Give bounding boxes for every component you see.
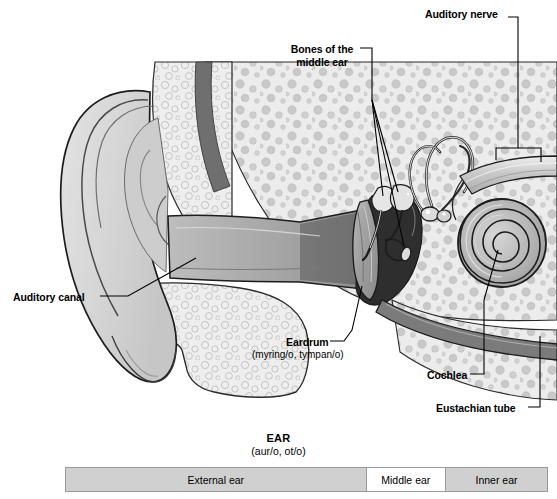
region-cell-external-ear: External ear [66, 468, 367, 491]
callout-cochlea: Cochlea [427, 369, 467, 382]
callout-bones-of-middle-ear: Bones of the middle ear [279, 43, 365, 68]
cochlea-spiral [458, 199, 546, 287]
figure-combining-forms: (aur/o, ot/o) [0, 445, 557, 457]
callout-eustachian-tube: Eustachian tube [436, 402, 516, 415]
callout-auditory-nerve: Auditory nerve [425, 8, 498, 21]
ear-region-bar: External ear Middle ear Inner ear [65, 467, 548, 492]
ear-anatomy-figure: Auditory nerve Bones of the middle ear A… [0, 0, 557, 499]
region-cell-inner-ear: Inner ear [446, 468, 547, 491]
figure-caption: EAR (aur/o, ot/o) [0, 432, 557, 457]
callout-auditory-canal: Auditory canal [13, 291, 85, 304]
auditory-canal [168, 208, 372, 290]
callout-eardrum: Eardrum [286, 336, 328, 349]
region-cell-middle-ear: Middle ear [367, 468, 446, 491]
callout-eardrum-combining-forms: (myring/o, tympan/o) [252, 349, 344, 360]
figure-title: EAR [0, 432, 557, 444]
ear-anatomy-illustration [0, 0, 557, 499]
